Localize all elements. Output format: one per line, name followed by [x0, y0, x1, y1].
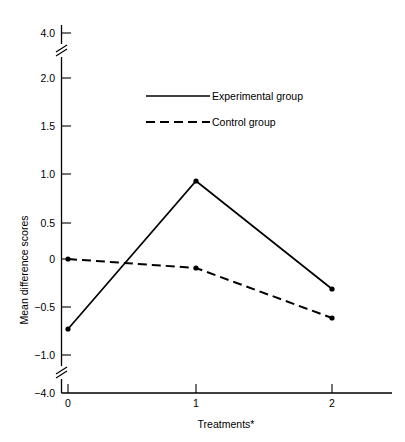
legend: Experimental group Control group	[146, 90, 303, 128]
y-axis-break-lower-icon	[56, 367, 67, 378]
x-tick-label-2: 2	[329, 397, 335, 409]
y-tick-label-4-0: 4.0	[40, 27, 55, 39]
y-axis-title: Mean difference scores	[18, 216, 30, 325]
y-tick-label-1-0: 1.0	[40, 168, 55, 180]
x-axis-title: Treatments*	[198, 418, 255, 430]
series-line-control-group	[68, 259, 332, 318]
x-tick-marks	[68, 384, 332, 393]
y-tick-label-0: 0	[49, 253, 55, 265]
legend-label-experimental-group: Experimental group	[212, 90, 303, 102]
y-tick-label-0-5: 0.5	[40, 217, 55, 229]
y-tick-label-neg-1-0: −1.0	[34, 349, 55, 361]
series-markers-experimental-group	[65, 178, 334, 331]
chart-page: 4.0 2.0 1.5 1.0 0.5 0 −0.5 −1.0 −4.0 0 1…	[0, 0, 405, 442]
series-line-experimental-group	[68, 181, 332, 329]
y-axis-break-upper-icon	[56, 45, 67, 56]
y-tick-label-1-5: 1.5	[40, 120, 55, 132]
legend-label-control-group: Control group	[212, 116, 276, 128]
line-chart: 4.0 2.0 1.5 1.0 0.5 0 −0.5 −1.0 −4.0 0 1…	[0, 0, 405, 442]
y-tick-label-2-0: 2.0	[40, 72, 55, 84]
y-tick-marks	[62, 33, 71, 355]
series-markers-control-group	[65, 256, 334, 320]
x-tick-label-0: 0	[65, 397, 71, 409]
x-tick-label-1: 1	[193, 397, 199, 409]
y-tick-label-neg-4-0: −4.0	[34, 387, 55, 399]
y-tick-label-neg-0-5: −0.5	[34, 301, 55, 313]
